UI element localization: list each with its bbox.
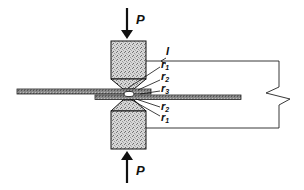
top-force-arrow-icon xyxy=(121,8,133,39)
bottom-force-arrow-icon xyxy=(121,151,133,183)
spot-weld-diagram: P P I r1 r2 r3 xyxy=(0,0,304,190)
lower-sheet xyxy=(95,95,241,100)
bottom-electrode xyxy=(111,100,146,149)
force-top-label: P xyxy=(136,12,145,27)
weld-nugget xyxy=(124,91,134,96)
svg-text:r3: r3 xyxy=(161,82,169,95)
current-label: I xyxy=(166,45,170,57)
force-bottom-label: P xyxy=(136,163,145,178)
resistance-r3: r3 xyxy=(161,82,169,95)
top-electrode xyxy=(111,41,146,89)
